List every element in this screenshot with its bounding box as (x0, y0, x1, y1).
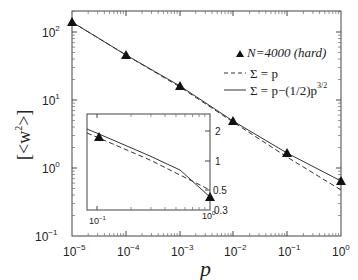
y-tick-labels: 102 101 100 10−1 (35, 24, 60, 244)
svg-text:100: 100 (42, 160, 60, 176)
svg-text:0.3: 0.3 (214, 205, 228, 216)
svg-text:10−1: 10−1 (89, 215, 107, 226)
chart: 10−5 10−4 10−3 10−2 10−1 100 102 101 100… (0, 0, 358, 280)
svg-text:102: 102 (42, 24, 60, 40)
svg-text:10−2: 10−2 (224, 243, 247, 259)
svg-text:0.5: 0.5 (213, 185, 227, 196)
svg-text:10−1: 10−1 (278, 243, 301, 259)
svg-text:1: 1 (215, 156, 221, 167)
svg-text:10−3: 10−3 (171, 243, 194, 259)
svg-text:101: 101 (42, 92, 60, 108)
svg-text:10−4: 10−4 (117, 243, 140, 259)
legend-triangle-icon (236, 50, 244, 57)
svg-text:2: 2 (215, 126, 221, 137)
svg-text:10−5: 10−5 (63, 243, 86, 259)
x-axis-label: p (198, 256, 211, 280)
legend: N=4000 (hard) Σ = p Σ = p−(1/2)p3/2 (224, 45, 327, 98)
svg-text:100: 100 (332, 243, 350, 259)
y-axis-label: [<w2>] (13, 110, 34, 160)
inset-frame (87, 114, 210, 210)
legend-item-data: N=4000 (hard) (246, 45, 326, 60)
legend-item-sigma-p: Σ = p (250, 66, 278, 81)
svg-text:10−1: 10−1 (35, 228, 58, 244)
legend-item-sigma-corrected: Σ = p−(1/2)p3/2 (250, 81, 327, 98)
